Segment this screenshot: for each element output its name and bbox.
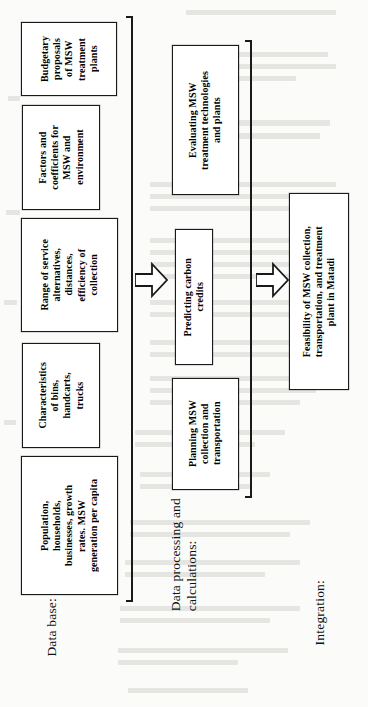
bracket-data-base [126,16,133,602]
figure-canvas: Budgetary proposals of MSW treatment pla… [0,0,368,707]
node-range-of-service[interactable]: Range of service alternatives, distances… [21,218,118,332]
arrow-processing-to-integration [256,262,289,298]
group-label-data-base: Data base: [44,598,68,698]
node-label: Characteristics of bins, handcarts, truc… [37,362,86,428]
bracket-data-processing [245,40,252,498]
node-label: Population, households, businesses, grow… [39,479,100,572]
node-characteristics-bins[interactable]: Characteristics of bins, handcarts, truc… [22,343,100,448]
node-evaluating-msw-treatment[interactable]: Evaluating MSW treatment technologies an… [172,45,239,195]
group-label-integration: Integration: [312,580,336,690]
node-feasibility-matadi[interactable]: Feasibility of MSW collection, transport… [289,193,349,390]
node-label: Budgetary proposals of MSW treatment pla… [39,36,100,82]
node-factors-coefficients[interactable]: Factors and coefficients for MSW and env… [22,105,100,210]
node-label: Range of service alternatives, distances… [39,239,100,311]
group-label-data-processing: Data processing and calculations: [168,498,210,668]
node-population-households[interactable]: Population, households, businesses, grow… [21,456,118,595]
node-predicting-carbon-credits[interactable]: Predicting carbon credits [175,229,213,365]
node-label: Evaluating MSW treatment technologies an… [187,71,224,170]
arrow-database-to-processing [135,262,168,298]
node-label: Feasibility of MSW collection, transport… [301,226,338,357]
node-planning-msw-collection[interactable]: Planning MSW collection and transportati… [172,378,239,490]
node-budgetary-proposals[interactable]: Budgetary proposals of MSW treatment pla… [21,22,117,96]
node-label: Factors and coefficients for MSW and env… [37,125,86,190]
node-label: Planning MSW collection and transportati… [187,400,224,467]
node-label: Predicting carbon credits [182,258,206,336]
